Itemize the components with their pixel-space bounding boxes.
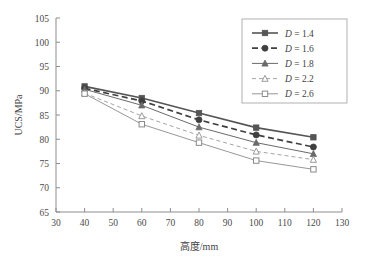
y-tick-label: 65 (40, 208, 50, 218)
x-tick-label: 50 (108, 218, 118, 228)
x-tick-label: 80 (194, 218, 204, 228)
y-tick-label: 80 (40, 135, 50, 145)
y-axis-tick-labels: 65707580859095100105 (35, 14, 50, 218)
legend-label: D = 1.6 (284, 44, 314, 54)
y-tick-label: 105 (35, 14, 50, 24)
data-point-filled-circle (253, 132, 259, 138)
data-point-open-square (254, 158, 259, 163)
data-point-filled-square (262, 30, 267, 35)
line-chart: 30405060708090100110120130 6570758085909… (0, 0, 372, 267)
y-tick-label: 95 (40, 62, 50, 72)
data-point-filled-circle (196, 117, 202, 123)
data-point-open-square (262, 91, 267, 96)
data-point-filled-square (254, 125, 259, 130)
data-point-filled-square (196, 110, 201, 115)
x-tick-label: 90 (223, 218, 233, 228)
y-axis-ticks (56, 18, 60, 212)
legend-label: D = 1.8 (284, 59, 314, 69)
data-point-filled-circle (262, 45, 268, 51)
chart-figure: 30405060708090100110120130 6570758085909… (0, 0, 372, 267)
x-tick-label: 130 (335, 218, 350, 228)
y-tick-label: 90 (40, 86, 50, 96)
data-point-open-square (82, 91, 87, 96)
y-axis-title: UCS/MPa (13, 94, 24, 136)
data-point-open-triangle (139, 113, 145, 119)
data-point-filled-circle (310, 144, 316, 150)
chart-legend: D = 1.4D = 1.6D = 1.8D = 2.2D = 2.6 (242, 19, 347, 103)
x-tick-label: 110 (278, 218, 292, 228)
data-point-open-square (196, 140, 201, 145)
x-axis-tick-labels: 30405060708090100110120130 (51, 218, 349, 228)
y-tick-label: 75 (40, 159, 50, 169)
data-point-open-square (139, 122, 144, 127)
x-axis-ticks (56, 208, 342, 212)
x-tick-label: 100 (249, 218, 264, 228)
data-point-open-triangle (310, 156, 316, 162)
x-axis-title: 高度/mm (180, 240, 219, 252)
x-tick-label: 40 (80, 218, 90, 228)
y-tick-label: 70 (40, 183, 50, 193)
data-point-open-square (311, 167, 316, 172)
x-tick-label: 60 (137, 218, 147, 228)
data-point-open-triangle (253, 148, 259, 154)
x-tick-label: 30 (51, 218, 61, 228)
x-tick-label: 70 (166, 218, 176, 228)
legend-label: D = 1.4 (284, 29, 314, 39)
y-tick-label: 85 (40, 111, 50, 121)
x-tick-label: 120 (306, 218, 321, 228)
data-point-filled-square (311, 135, 316, 140)
legend-label: D = 2.6 (284, 89, 314, 99)
y-tick-label: 100 (35, 38, 50, 48)
legend-label: D = 2.2 (284, 74, 314, 84)
